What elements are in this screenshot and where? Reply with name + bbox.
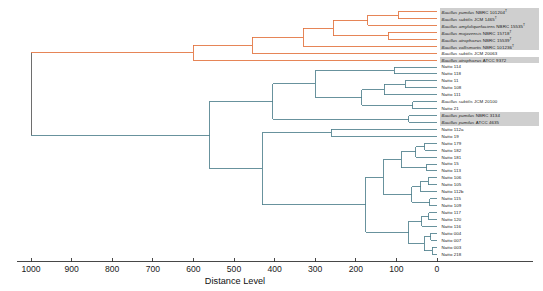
leaf-label-26: Natto 112b <box>442 189 464 194</box>
x-tick-600: 600 <box>186 264 200 274</box>
x-tick-200: 200 <box>349 264 363 274</box>
leaf-label-18: Natto 19 <box>442 134 459 139</box>
leaf-label-23: Natto 113 <box>442 168 462 173</box>
x-tick-400: 400 <box>267 264 281 274</box>
leaf-label-31: Natto 116 <box>442 224 462 229</box>
x-tick-0: 0 <box>435 264 440 274</box>
leaf-label-11: Natto 108 <box>442 85 462 90</box>
x-tick-900: 900 <box>64 264 78 274</box>
leaf-label-35: Natto 218 <box>442 252 462 257</box>
leaf-label-13: Bacillus subtilis JCM 20100 <box>442 99 498 104</box>
x-tick-800: 800 <box>105 264 119 274</box>
x-tick-300: 300 <box>308 264 322 274</box>
x-tick-700: 700 <box>146 264 160 274</box>
leaf-label-28: Natto 109 <box>442 203 462 208</box>
leaf-label-19: Natto 179 <box>442 141 462 146</box>
leaf-label-34: Natto 003 <box>442 245 462 250</box>
leaf-label-25: Natto 105 <box>442 182 462 187</box>
x-axis-title: Distance Level <box>205 276 265 286</box>
leaf-label-33: Natto 007 <box>442 238 462 243</box>
leaf-label-29: Natto 117 <box>442 210 462 215</box>
leaf-label-10: Natto 11 <box>442 78 459 83</box>
x-tick-500: 500 <box>227 264 241 274</box>
leaf-label-8: Natto 114 <box>442 64 462 69</box>
leaf-label-7: Bacillus atrophaeus ATCC 9372 <box>442 58 507 63</box>
leaf-label-24: Natto 106 <box>442 175 462 180</box>
leaf-label-21: Natto 181 <box>442 155 462 160</box>
leaf-label-6: Bacillus subtilis JCM 20063 <box>442 51 498 56</box>
leaf-label-14: Natto 21 <box>442 106 459 111</box>
leaf-label-12: Natto 111 <box>442 92 461 97</box>
dendrogram-branches <box>31 12 437 255</box>
leaf-label-32: Natto 004 <box>442 231 462 236</box>
leaf-label-22: Natto 15 <box>442 161 459 166</box>
leaf-label-27: Natto 115 <box>442 196 462 201</box>
leaf-label-30: Natto 120 <box>442 217 462 222</box>
leaf-label-5: Bacillus vallismortis NBRC 101236T <box>442 44 515 50</box>
leaf-label-16: Bacillus pumilus ATCC 4635 <box>442 120 500 125</box>
leaf-label-20: Natto 182 <box>442 148 462 153</box>
x-tick-100: 100 <box>389 264 403 274</box>
leaf-label-15: Bacillus pumilus NBRC 3134 <box>442 113 500 118</box>
leaf-label-9: Natto 118 <box>442 71 462 76</box>
x-axis <box>17 258 533 261</box>
x-tick-1000: 1000 <box>21 264 40 274</box>
leaf-label-17: Natto 112a <box>442 127 464 132</box>
